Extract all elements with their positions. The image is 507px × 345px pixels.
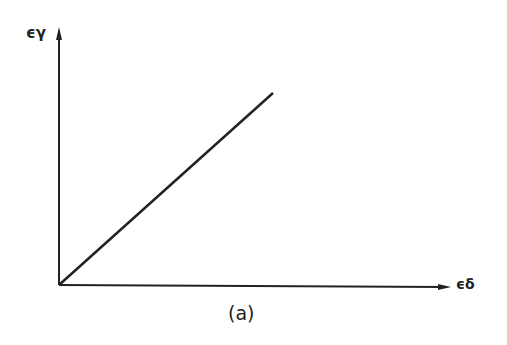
x-axis-arrow-icon: [438, 284, 451, 290]
linear-relation-line: [59, 93, 273, 285]
x-axis: [59, 285, 443, 287]
diagram-canvas: [0, 0, 507, 345]
figure-caption: (a): [228, 302, 254, 324]
y-axis-arrow-icon: [56, 27, 62, 40]
x-axis-label: ϵδ: [456, 276, 475, 292]
y-axis-label: ϵγ: [26, 24, 46, 42]
